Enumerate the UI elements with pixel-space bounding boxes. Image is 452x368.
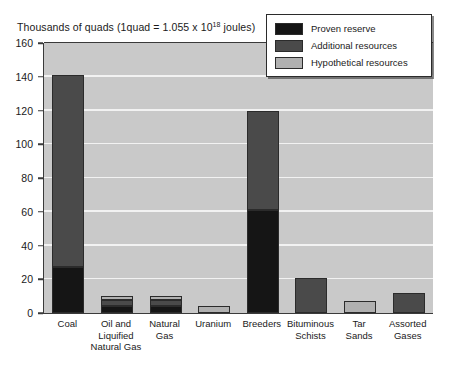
bar-segment[interactable] xyxy=(101,306,133,313)
x-tick-label: Assorted Gases xyxy=(376,318,440,341)
legend-label: Proven reserve xyxy=(311,23,375,34)
y-tick-label: 20 xyxy=(21,273,33,285)
bar-segment[interactable] xyxy=(101,296,133,299)
bar-segment[interactable] xyxy=(150,300,182,307)
bar-segment[interactable] xyxy=(344,301,376,313)
chart-title-prefix: Thousands of quads (1quad = 1.055 x 10 xyxy=(17,21,213,33)
bar-group[interactable] xyxy=(295,43,327,313)
y-tick-label: 0 xyxy=(27,307,33,319)
bar-group[interactable] xyxy=(344,43,376,313)
chart-title: Thousands of quads (1quad = 1.055 x 1018… xyxy=(17,21,255,33)
chart-title-exponent: 18 xyxy=(213,21,221,28)
y-axis: 020406080100120140160 xyxy=(0,0,43,368)
bar-group[interactable] xyxy=(247,43,279,313)
bar-segment[interactable] xyxy=(52,267,84,313)
bar-segment[interactable] xyxy=(247,111,279,211)
chart-legend: Proven reserveAdditional resourcesHypoth… xyxy=(266,14,432,77)
bar-group[interactable] xyxy=(52,43,84,313)
bar-segment[interactable] xyxy=(101,300,133,307)
legend-item[interactable]: Proven reserve xyxy=(275,21,424,36)
y-tick-label: 80 xyxy=(21,172,33,184)
bar-segment[interactable] xyxy=(150,306,182,313)
legend-label: Hypothetical resources xyxy=(311,57,408,68)
bar-segment[interactable] xyxy=(295,278,327,313)
bar-group[interactable] xyxy=(198,43,230,313)
legend-item[interactable]: Additional resources xyxy=(275,38,424,53)
bar-segment[interactable] xyxy=(52,75,84,267)
bar-segment[interactable] xyxy=(247,210,279,313)
bar-segment[interactable] xyxy=(393,293,425,313)
bar-group[interactable] xyxy=(101,43,133,313)
legend-swatch xyxy=(275,57,303,69)
plot-area xyxy=(43,43,433,314)
legend-label: Additional resources xyxy=(311,40,397,51)
legend-item[interactable]: Hypothetical resources xyxy=(275,55,424,70)
y-tick-label: 40 xyxy=(21,240,33,252)
bar-group[interactable] xyxy=(393,43,425,313)
y-tick-label: 100 xyxy=(15,138,33,150)
y-tick-label: 60 xyxy=(21,206,33,218)
bar-group[interactable] xyxy=(150,43,182,313)
legend-swatch xyxy=(275,40,303,52)
chart-figure: Thousands of quads (1quad = 1.055 x 1018… xyxy=(0,0,452,368)
x-axis-labels: CoalOil and Liquified Natural GasNatural… xyxy=(43,318,432,366)
bar-segment[interactable] xyxy=(150,296,182,299)
y-tick-label: 120 xyxy=(15,105,33,117)
chart-title-suffix: joules) xyxy=(221,21,256,33)
y-tick-label: 160 xyxy=(15,37,33,49)
y-tick-label: 140 xyxy=(15,71,33,83)
bar-segment[interactable] xyxy=(198,306,230,313)
bars-layer xyxy=(44,43,433,313)
legend-swatch xyxy=(275,23,303,35)
